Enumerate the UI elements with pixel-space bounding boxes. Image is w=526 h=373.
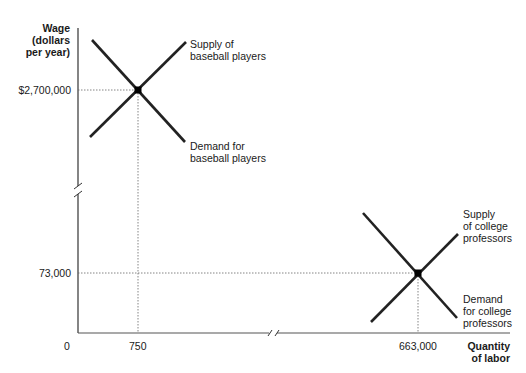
y-axis-title: Wage (dollars per year) [10, 22, 70, 58]
x-tick-zero: 0 [64, 340, 70, 352]
y-tick-high: $2,700,000 [0, 84, 71, 96]
supply-professors-line [371, 234, 458, 322]
supply-professors-label: Supply of college professors [463, 208, 512, 244]
label-line: Supply [463, 208, 512, 220]
y-axis-title-line: per year) [10, 46, 70, 58]
x-tick-750: 750 [129, 340, 147, 352]
label-line: of college [463, 220, 512, 232]
guide-lines [78, 90, 418, 333]
x-axis-title-line: Quantity [440, 340, 510, 352]
y-axis-title-line: Wage [10, 22, 70, 34]
label-line: professors [463, 232, 512, 244]
demand-professors-label: Demand for college professors [463, 293, 512, 329]
x-axis [78, 330, 510, 336]
equilibrium-professors-point [415, 270, 422, 277]
label-line: Demand [463, 293, 512, 305]
label-line: Supply of [190, 38, 266, 50]
label-line: baseball players [190, 50, 266, 62]
label-line: baseball players [190, 152, 266, 164]
y-tick-low: 73,000 [0, 267, 71, 279]
y-axis-title-line: (dollars [10, 34, 70, 46]
x-tick-663000: 663,000 [399, 340, 437, 352]
x-axis-title: Quantity of labor [440, 340, 510, 364]
demand-professors-line [363, 213, 457, 318]
equilibrium-baseball-point [135, 87, 142, 94]
demand-baseball-label: Demand for baseball players [190, 140, 266, 164]
label-line: for college [463, 305, 512, 317]
label-line: Demand for [190, 140, 266, 152]
x-axis-title-line: of labor [440, 352, 510, 364]
label-line: professors [463, 317, 512, 329]
supply-baseball-label: Supply of baseball players [190, 38, 266, 62]
y-axis [74, 28, 82, 333]
